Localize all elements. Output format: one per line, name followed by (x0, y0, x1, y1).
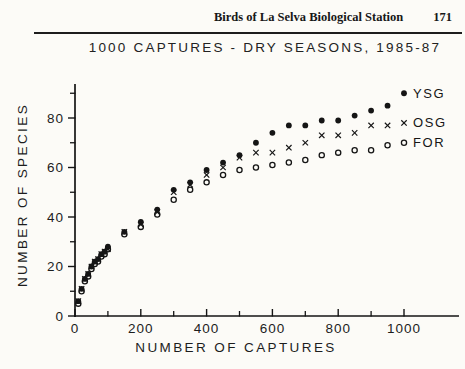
data-point-for (385, 143, 390, 148)
data-point-for (220, 172, 225, 177)
data-point-ysg (121, 229, 127, 235)
y-tick-label: 80 (47, 111, 64, 126)
data-point-ysg (302, 123, 308, 129)
y-tick-label: 0 (55, 309, 64, 324)
x-tick-label: 0 (71, 321, 80, 336)
data-point-ysg (204, 167, 210, 173)
data-point-ysg (220, 160, 226, 166)
data-point-for (401, 140, 406, 145)
data-point-for (270, 162, 275, 167)
x-tick-label: 1000 (387, 321, 421, 336)
series-label-ysg: YSG (413, 86, 445, 101)
y-tick-label: 20 (47, 259, 64, 274)
data-point-ysg (253, 140, 259, 146)
x-tick-label: 200 (128, 321, 154, 336)
data-point-ysg (368, 108, 374, 114)
data-point-for (319, 153, 324, 158)
data-point-ysg (89, 264, 95, 270)
data-point-for (204, 180, 209, 185)
data-point-ysg (187, 179, 193, 185)
data-point-ysg (138, 219, 144, 225)
data-point-ysg (154, 207, 160, 213)
data-point-for (369, 148, 374, 153)
data-point-for (352, 148, 357, 153)
x-tick-label: 600 (260, 321, 286, 336)
data-point-ysg (319, 118, 325, 124)
data-point-for (303, 157, 308, 162)
x-tick-label: 400 (194, 321, 220, 336)
x-axis-title: NUMBER OF CAPTURES (135, 340, 336, 355)
data-point-ysg (270, 130, 276, 136)
y-axis-title: NUMBER OF SPECIES (15, 103, 30, 287)
species-accumulation-chart: 02040608002004006008001000NUMBER OF CAPT… (0, 0, 465, 369)
data-point-ysg (95, 256, 101, 262)
data-point-ysg (385, 103, 391, 109)
data-point-for (336, 150, 341, 155)
data-point-ysg (237, 152, 243, 158)
data-point-ysg (352, 113, 358, 119)
data-point-ysg (286, 123, 292, 129)
series-label-osg: OSG (413, 115, 447, 130)
y-tick-label: 40 (47, 210, 64, 225)
book-page: Birds of La Selva Biological Station 171… (0, 0, 465, 369)
data-point-ysg (401, 90, 407, 96)
data-point-for (237, 167, 242, 172)
data-point-ysg (105, 244, 111, 250)
data-point-ysg (75, 298, 81, 304)
x-tick-label: 800 (325, 321, 351, 336)
data-point-ysg (102, 249, 108, 255)
data-point-ysg (335, 118, 341, 124)
data-point-for (253, 165, 258, 170)
series-label-for: FOR (413, 135, 445, 150)
data-point-ysg (82, 276, 88, 282)
y-tick-label: 60 (47, 160, 64, 175)
data-point-for (171, 197, 176, 202)
data-point-ysg (79, 286, 85, 292)
data-point-ysg (171, 187, 177, 193)
data-point-for (188, 187, 193, 192)
data-point-for (286, 160, 291, 165)
data-point-ysg (85, 271, 91, 277)
